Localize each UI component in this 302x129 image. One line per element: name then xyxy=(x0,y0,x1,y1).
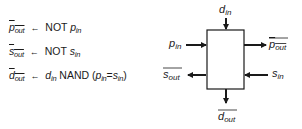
block-diagram: din pin pout sout sin dout xyxy=(0,0,302,129)
logic-block xyxy=(207,30,244,89)
s-out-port-label: sout xyxy=(163,68,180,82)
p-out-port-label: pout xyxy=(268,38,287,52)
p-in-port-label: pin xyxy=(168,37,182,51)
s-in-port-label: sin xyxy=(272,67,284,81)
d-out-port-label: dout xyxy=(218,110,236,124)
d-in-port-label: din xyxy=(219,3,232,17)
